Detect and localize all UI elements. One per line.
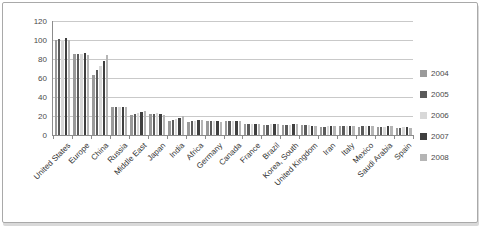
- bar-iran-2006: [327, 126, 329, 135]
- bar-italy-2004: [339, 126, 341, 136]
- x-tick-mark: [224, 135, 225, 139]
- legend-label: 2005: [431, 90, 449, 99]
- y-tick-label-80: 80: [21, 55, 47, 64]
- bar-canada-2005: [228, 121, 230, 135]
- bar-italy-2007: [349, 126, 351, 136]
- x-tick-mark: [72, 135, 73, 139]
- bar-united-kingdom-2004: [301, 125, 303, 135]
- legend-entry-2007: 2007: [420, 132, 449, 141]
- bar-europe-2008: [87, 55, 89, 135]
- bar-europe-2006: [80, 54, 82, 135]
- x-tick-mark: [110, 135, 111, 139]
- bar-middle-east-2004: [130, 115, 132, 135]
- bar-saudi-arabia-2008: [390, 126, 392, 135]
- y-tick-label-40: 40: [21, 93, 47, 102]
- bar-korea-south-2006: [289, 125, 291, 135]
- bar-united-kingdom-2007: [311, 126, 313, 136]
- legend-label: 2007: [431, 132, 449, 141]
- y-tick-label-0: 0: [21, 131, 47, 140]
- legend-swatch-icon: [420, 70, 427, 77]
- bar-korea-south-2004: [282, 125, 284, 135]
- y-tick-label-20: 20: [21, 112, 47, 121]
- bar-saudi-arabia-2004: [377, 127, 379, 135]
- bar-germany-2008: [220, 122, 222, 135]
- bar-japan-2008: [163, 115, 165, 135]
- x-tick-mark: [53, 135, 54, 139]
- x-tick-mark: [280, 135, 281, 139]
- bar-group-china: [91, 21, 110, 135]
- bar-group-middle-east: [129, 21, 148, 135]
- x-tick-mark: [129, 135, 130, 139]
- bar-middle-east-2006: [137, 113, 139, 135]
- bar-group-united-states: [53, 21, 72, 135]
- bar-group-iran: [318, 21, 337, 135]
- bar-united-kingdom-2005: [304, 125, 306, 135]
- legend-label: 2004: [431, 69, 449, 78]
- bar-india-2006: [175, 119, 177, 135]
- bar-iran-2008: [333, 126, 335, 136]
- bar-china-2008: [106, 55, 108, 135]
- legend-entry-2006: 2006: [420, 111, 449, 120]
- bar-group-india: [167, 21, 186, 135]
- bar-group-japan: [148, 21, 167, 135]
- legend-swatch-icon: [420, 133, 427, 140]
- bar-india-2005: [172, 120, 174, 135]
- x-tick-mark: [91, 135, 92, 139]
- bar-iran-2005: [323, 127, 325, 135]
- bar-india-2004: [168, 121, 170, 135]
- bar-russia-2006: [118, 107, 120, 136]
- x-tick-mark: [186, 135, 187, 139]
- bar-united-kingdom-2008: [314, 126, 316, 136]
- bar-group-italy: [337, 21, 356, 135]
- bar-brazil-2008: [277, 124, 279, 135]
- bar-brazil-2006: [270, 124, 272, 135]
- bar-canada-2004: [225, 121, 227, 135]
- bar-africa-2008: [201, 120, 203, 135]
- legend-entry-2005: 2005: [420, 90, 449, 99]
- bar-korea-south-2005: [285, 125, 287, 135]
- bar-korea-south-2007: [292, 124, 294, 135]
- bar-group-spain: [394, 21, 413, 135]
- bar-united-states-2008: [68, 40, 70, 135]
- chart-frame: 020406080100120 United StatesEuropeChina…: [2, 2, 478, 223]
- bar-middle-east-2007: [140, 112, 142, 135]
- bar-mexico-2007: [368, 126, 370, 135]
- legend-entry-2008: 2008: [420, 153, 449, 162]
- bar-group-canada: [224, 21, 243, 135]
- bar-europe-2005: [77, 54, 79, 135]
- bar-group-brazil: [261, 21, 280, 135]
- bar-group-africa: [186, 21, 205, 135]
- bar-group-korea-south: [280, 21, 299, 135]
- plot-area: [52, 21, 413, 136]
- bar-china-2004: [92, 75, 94, 135]
- bar-brazil-2005: [266, 125, 268, 135]
- bar-canada-2007: [235, 121, 237, 135]
- bar-india-2008: [182, 116, 184, 135]
- bar-group-mexico: [356, 21, 375, 135]
- x-tick-mark: [337, 135, 338, 139]
- bar-china-2007: [103, 61, 105, 135]
- x-tick-mark: [242, 135, 243, 139]
- bar-russia-2004: [111, 107, 113, 135]
- bar-korea-south-2008: [296, 124, 298, 135]
- x-tick-mark: [261, 135, 262, 139]
- bar-africa-2004: [187, 122, 189, 135]
- bar-germany-2007: [216, 121, 218, 135]
- bar-italy-2006: [346, 126, 348, 136]
- bar-russia-2008: [125, 107, 127, 136]
- bar-africa-2007: [197, 120, 199, 135]
- bar-japan-2005: [153, 114, 155, 135]
- legend-swatch-icon: [420, 112, 427, 119]
- y-tick-label-120: 120: [21, 17, 47, 26]
- bar-japan-2006: [156, 113, 158, 135]
- bar-japan-2007: [159, 114, 161, 135]
- bar-saudi-arabia-2007: [387, 126, 389, 135]
- legend-label: 2008: [431, 153, 449, 162]
- bar-iran-2007: [330, 126, 332, 135]
- x-tick-mark: [148, 135, 149, 139]
- x-tick-mark: [394, 135, 395, 139]
- bar-france-2008: [258, 124, 260, 135]
- bar-iran-2004: [320, 127, 322, 135]
- legend-swatch-icon: [420, 91, 427, 98]
- bar-group-saudi-arabia: [375, 21, 394, 135]
